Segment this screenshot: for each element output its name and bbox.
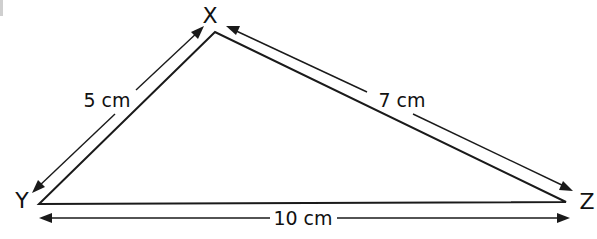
triangle-diagram: X Y Z 5 cm 7 cm 10 cm xyxy=(0,0,597,239)
vertex-label-z: Z xyxy=(579,189,594,214)
vertex-label-y: Y xyxy=(14,188,29,213)
vertex-label-x: X xyxy=(202,3,217,28)
dimension-line-xz-upper xyxy=(232,29,367,92)
side-label-xy: 5 cm xyxy=(83,89,130,111)
triangle-xyz xyxy=(39,32,566,204)
arrowhead-yz-right xyxy=(557,213,570,223)
arrowhead-yz-left xyxy=(39,213,52,223)
side-label-xz: 7 cm xyxy=(378,89,425,111)
side-label-yz: 10 cm xyxy=(273,207,332,229)
dimension-line-xz-lower xyxy=(413,114,566,187)
arrowhead-xz-left xyxy=(226,26,240,35)
dimension-line-xy-upper xyxy=(136,31,199,90)
triangle-shape xyxy=(39,32,566,204)
arrowhead-xz-right xyxy=(559,181,573,191)
dimension-line-xy-lower xyxy=(37,114,115,188)
